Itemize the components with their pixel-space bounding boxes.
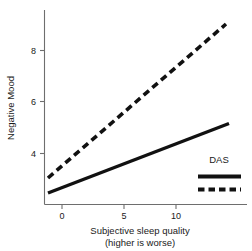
series-line-low-das — [48, 124, 229, 194]
x-tick-label-5: 5 — [121, 211, 126, 221]
y-axis-title: Negative Mood — [5, 76, 16, 140]
y-tick-label-4: 4 — [31, 149, 36, 159]
line-chart-canvas: 8 6 4 0 5 10 Negative Mood Subjective sl… — [0, 0, 252, 251]
legend-title: DAS — [209, 154, 229, 165]
x-axis-title-line1: Subjective sleep quality — [90, 225, 190, 236]
x-tick-label-0: 0 — [59, 211, 64, 221]
x-tick-label-10: 10 — [171, 211, 181, 221]
series-line-high-das — [48, 24, 226, 178]
x-axis-title-line2: (higher is worse) — [105, 237, 175, 248]
y-tick-label-8: 8 — [31, 46, 36, 56]
chart-figure: 8 6 4 0 5 10 Negative Mood Subjective sl… — [0, 0, 252, 251]
y-tick-label-6: 6 — [31, 97, 36, 107]
